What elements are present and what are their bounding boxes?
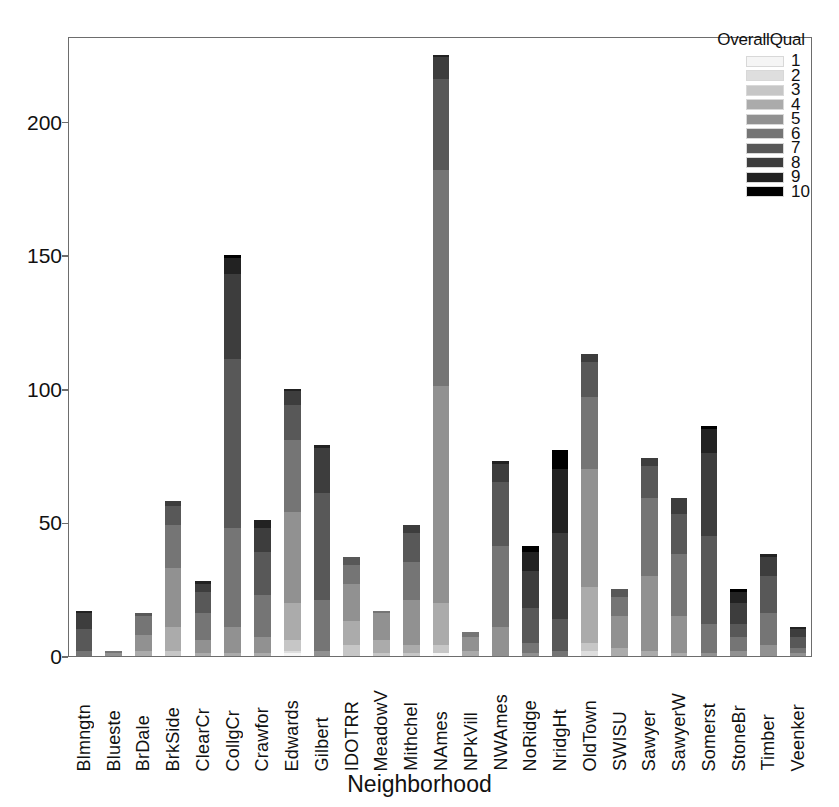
bar-segment-qual-6 (254, 595, 271, 638)
bar-segment-qual-1 (284, 653, 301, 656)
bar-segment-qual-5 (314, 651, 331, 656)
bar-segment-qual-8 (314, 448, 331, 493)
bar-gilbert[interactable] (314, 445, 331, 656)
bar-sawyerw[interactable] (671, 498, 688, 656)
bar-segment-qual-9 (730, 592, 747, 603)
bar-segment-qual-4 (254, 653, 271, 656)
bar-segment-qual-5 (611, 616, 628, 648)
legend-entry: 10 (705, 185, 817, 200)
bar-swisu[interactable] (611, 589, 628, 656)
bar-segment-qual-4 (671, 653, 688, 656)
bar-idotrr[interactable] (343, 557, 360, 656)
plot-area (69, 38, 811, 656)
bar-segment-qual-4 (284, 603, 301, 640)
bar-segment-qual-7 (76, 629, 93, 650)
bar-segment-qual-4 (343, 621, 360, 645)
bar-segment-qual-6 (403, 562, 420, 599)
legend-swatch-qual-6 (746, 128, 784, 139)
bar-segment-qual-7 (522, 608, 539, 643)
bar-segment-qual-6 (701, 624, 718, 653)
bar-segment-qual-9 (254, 520, 271, 528)
x-axis-tick-label: Edwards (282, 700, 303, 771)
bar-edwards[interactable] (284, 389, 301, 656)
y-axis-tick-label: 100 (27, 378, 62, 402)
bar-segment-qual-6 (581, 397, 598, 469)
x-axis-tick-label: BrDale (133, 715, 154, 771)
bar-collgcr[interactable] (224, 255, 241, 656)
bar-segment-qual-6 (522, 643, 539, 654)
bar-oldtown[interactable] (581, 354, 598, 656)
bar-segment-qual-4 (165, 627, 182, 651)
x-axis-tick-label: NWAmes (491, 694, 512, 771)
x-axis-tick-label: NPkVill (461, 712, 482, 771)
bar-segment-qual-5 (581, 469, 598, 587)
bar-somerst[interactable] (701, 426, 718, 656)
bar-segment-qual-5 (135, 635, 152, 651)
bar-timber[interactable] (760, 554, 777, 656)
x-axis-tick-label: Timber (758, 714, 779, 771)
bar-segment-qual-7 (492, 482, 509, 546)
bar-segment-qual-5 (284, 512, 301, 603)
bar-blueste[interactable] (105, 651, 122, 656)
bar-segment-qual-9 (224, 258, 241, 274)
bar-segment-qual-5 (760, 645, 777, 656)
bar-segment-qual-4 (224, 653, 241, 656)
bar-segment-qual-7 (254, 552, 271, 595)
bar-segment-qual-8 (552, 533, 569, 619)
bar-segment-qual-8 (760, 557, 777, 576)
bar-segment-qual-7 (760, 576, 777, 613)
x-axis-tick-label: CollgCr (223, 710, 244, 771)
bar-nwames[interactable] (492, 461, 509, 656)
bar-segment-qual-6 (284, 440, 301, 512)
bar-segment-qual-7 (433, 79, 450, 170)
bar-brdale[interactable] (135, 613, 152, 656)
x-axis-tick-label: IDOTRR (342, 701, 363, 771)
bar-segment-qual-9 (552, 469, 569, 533)
bar-segment-qual-8 (790, 629, 807, 637)
bar-segment-qual-5 (195, 640, 212, 653)
bar-nridght[interactable] (552, 450, 569, 656)
bar-clearcr[interactable] (195, 581, 212, 656)
bar-stonebr[interactable] (730, 589, 747, 656)
bar-segment-qual-5 (105, 653, 122, 656)
plot-frame (68, 37, 812, 657)
legend-swatch-qual-9 (746, 172, 784, 183)
bar-segment-qual-5 (730, 651, 747, 656)
legend-title: OverallQual (705, 30, 817, 50)
bar-segment-qual-9 (522, 552, 539, 571)
bar-noridge[interactable] (522, 546, 539, 656)
bar-segment-qual-7 (343, 557, 360, 565)
bar-crawfor[interactable] (254, 520, 271, 656)
bar-segment-qual-5 (790, 653, 807, 656)
legend-swatch-qual-2 (746, 70, 784, 81)
bar-segment-qual-8 (671, 498, 688, 514)
bar-segment-qual-5 (462, 637, 479, 650)
bar-blmngtn[interactable] (76, 611, 93, 656)
bar-mithchel[interactable] (403, 525, 420, 656)
bar-segment-qual-5 (492, 627, 509, 656)
bar-segment-qual-5 (403, 600, 420, 645)
bar-meadowv[interactable] (373, 611, 390, 656)
bar-segment-qual-4 (462, 651, 479, 656)
bar-segment-qual-8 (224, 274, 241, 360)
bar-segment-qual-5 (224, 627, 241, 654)
bar-segment-qual-4 (611, 648, 628, 656)
x-axis-tick-label: NAmes (431, 711, 452, 771)
bar-sawyer[interactable] (641, 458, 658, 656)
bar-segment-qual-4 (373, 640, 390, 653)
bar-segment-qual-7 (730, 624, 747, 637)
bar-segment-qual-5 (343, 584, 360, 621)
bar-segment-qual-3 (165, 651, 182, 656)
bar-brkside[interactable] (165, 501, 182, 656)
bar-veenker[interactable] (790, 627, 807, 656)
bar-npkvill[interactable] (462, 632, 479, 656)
bar-segment-qual-6 (224, 528, 241, 627)
bar-segment-qual-7 (611, 589, 628, 597)
x-axis-tick-label: ClearCr (193, 708, 214, 771)
bar-segment-qual-6 (76, 651, 93, 656)
x-axis-tick-label: Mithchel (401, 702, 422, 771)
legend-swatch-qual-8 (746, 157, 784, 168)
bar-names[interactable] (433, 55, 450, 656)
bar-segment-qual-4 (403, 645, 420, 653)
bar-segment-qual-7 (790, 637, 807, 648)
